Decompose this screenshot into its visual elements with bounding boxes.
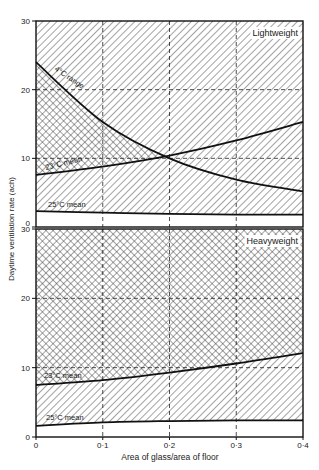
panel-title-heavyweight: Heavyweight <box>246 236 298 246</box>
y-tick-label: 30 <box>21 225 30 234</box>
x-axis-label: Area of glass/area of floor <box>121 452 219 462</box>
mean25-label-top: 25°C mean <box>48 200 86 209</box>
chart-canvas: 0102030010203000·10·20·30·4 Daytime vent… <box>0 0 319 470</box>
ventilation-chart: 0102030010203000·10·20·30·4 Daytime vent… <box>0 0 319 470</box>
x-tick-label: 0·3 <box>230 441 242 450</box>
mean23-label-bottom: 23°C mean <box>44 371 82 380</box>
x-tick-label: 0·2 <box>164 441 176 450</box>
y-tick-label: 10 <box>21 154 30 163</box>
y-tick-label: 20 <box>21 294 30 303</box>
x-tick-label: 0·4 <box>297 441 309 450</box>
x-tick-label: 0 <box>34 441 39 450</box>
panel-title-lightweight: Lightweight <box>252 28 298 38</box>
x-tick-label: 0·1 <box>97 441 109 450</box>
y-tick-label: 30 <box>21 17 30 26</box>
y-tick-label: 10 <box>21 364 30 373</box>
y-axis-label: Daytime ventilation rate (ach) <box>7 177 16 281</box>
y-tick-label: 0 <box>26 433 31 442</box>
y-tick-label: 20 <box>21 86 30 95</box>
mean25-label-bottom: 25°C mean <box>46 413 84 422</box>
